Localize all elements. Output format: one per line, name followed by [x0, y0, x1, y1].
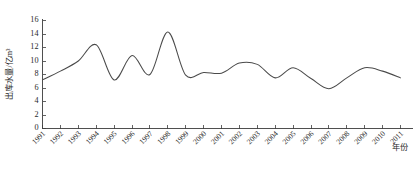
- y-axis: 0246810121416: [30, 15, 45, 132]
- data-series-outflow: [43, 32, 401, 89]
- x-axis-tick-label: 2010: [370, 129, 387, 146]
- y-axis-tick-label: 14: [30, 29, 38, 38]
- x-axis-tick-label: 1997: [137, 129, 154, 146]
- x-axis-tick-label: 2009: [352, 129, 369, 146]
- x-axis: 1991199219931994199519961997199819992000…: [30, 125, 412, 146]
- x-axis-tick-label: 1995: [102, 129, 119, 146]
- x-axis-tick-label: 2002: [227, 129, 244, 146]
- y-axis-tick-label: 16: [30, 15, 38, 24]
- x-axis-tick-label: 1994: [84, 129, 101, 146]
- x-axis-tick-label: 2007: [316, 129, 333, 146]
- x-axis-tick-label: 2008: [334, 129, 351, 146]
- y-axis-tick-label: 8: [34, 69, 38, 78]
- x-axis-tick-label: 1998: [155, 129, 172, 146]
- y-axis-tick-label: 12: [30, 42, 38, 51]
- x-axis-tick-label: 1996: [120, 129, 137, 146]
- x-axis-tick-label: 1991: [30, 129, 47, 146]
- x-axis-tick-label: 2005: [281, 129, 298, 146]
- y-axis-tick-label: 2: [34, 110, 38, 119]
- chart-container: 0246810121416 19911992199319941995199619…: [0, 0, 420, 187]
- x-axis-tick-label: 2000: [191, 129, 208, 146]
- y-axis-title: 出库水量/亿m³: [4, 48, 14, 100]
- x-axis-title: 年份: [392, 142, 408, 152]
- x-axis-tick-label: 1993: [66, 129, 83, 146]
- y-axis-tick-label: 4: [34, 96, 38, 105]
- x-axis-tick-label: 2001: [209, 129, 226, 146]
- x-axis-tick-label: 2003: [245, 129, 262, 146]
- x-axis-tick-label: 1999: [173, 129, 190, 146]
- line-chart: 0246810121416 19911992199319941995199619…: [0, 0, 420, 187]
- x-axis-tick-label: 1992: [48, 129, 65, 146]
- x-axis-tick-label: 2004: [263, 129, 280, 146]
- y-axis-tick-label: 10: [30, 56, 38, 65]
- outflow-line-path: [43, 32, 401, 89]
- x-axis-tick-label: 2006: [299, 129, 316, 146]
- y-axis-tick-label: 6: [34, 83, 38, 92]
